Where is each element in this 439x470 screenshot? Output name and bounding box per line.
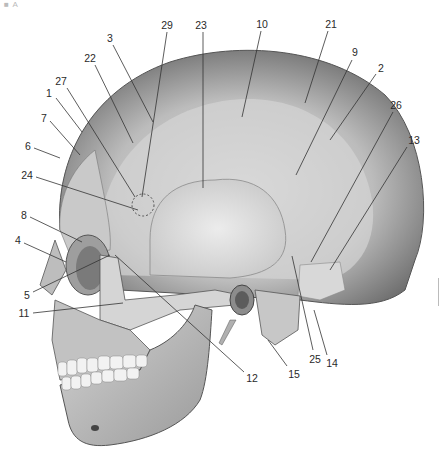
label-25: 25: [309, 354, 321, 365]
temporal-squama: [150, 179, 286, 278]
label-23: 23: [195, 20, 207, 31]
label-14: 14: [326, 358, 338, 369]
mastoid-process: [255, 290, 300, 345]
label-6: 6: [25, 141, 31, 152]
label-4: 4: [15, 235, 21, 246]
label-11: 11: [19, 308, 30, 319]
label-1: 1: [46, 88, 52, 99]
label-8: 8: [21, 210, 27, 221]
label-2: 2: [378, 63, 384, 74]
label-15: 15: [288, 369, 300, 380]
label-9: 9: [352, 47, 358, 58]
skull-diagram: ■ A: [0, 0, 439, 470]
label-24: 24: [21, 170, 33, 181]
label-7: 7: [41, 113, 47, 124]
label-12: 12: [246, 373, 258, 384]
label-27: 27: [55, 76, 67, 87]
skull-illustration: [0, 0, 439, 470]
label-29: 29: [161, 20, 173, 31]
label-10: 10: [256, 19, 268, 30]
label-5: 5: [24, 290, 30, 301]
label-13: 13: [408, 135, 420, 146]
styloid-process: [219, 320, 236, 345]
label-21: 21: [325, 19, 337, 30]
label-22: 22: [84, 53, 96, 64]
label-26: 26: [390, 100, 402, 111]
label-3: 3: [107, 33, 113, 44]
